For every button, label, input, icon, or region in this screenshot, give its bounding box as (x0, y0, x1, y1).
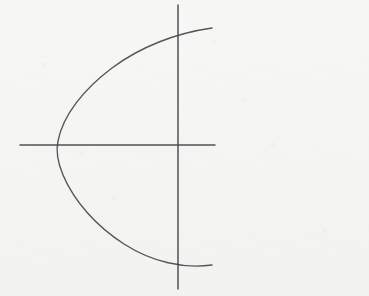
parabola-curve (57, 28, 212, 266)
geometry-sketch (0, 0, 369, 296)
paper-sheet (0, 0, 369, 296)
